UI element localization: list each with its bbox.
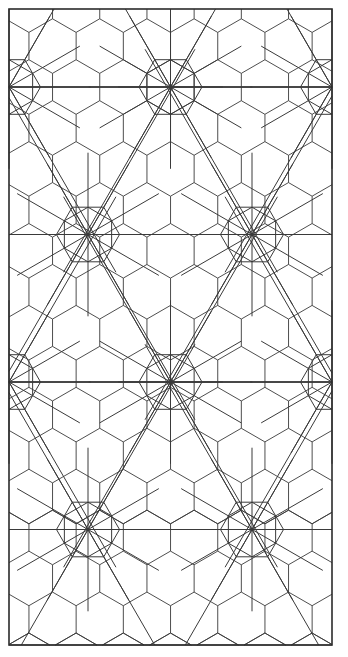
tessellation-drawing (0, 0, 348, 657)
pattern-page (0, 0, 348, 657)
